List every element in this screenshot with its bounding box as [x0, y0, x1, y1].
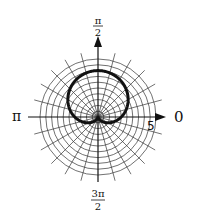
arrow-right-icon	[155, 113, 166, 121]
angle-label-3pi-over-2-num: 3π	[92, 188, 105, 199]
angle-label-3pi-over-2-den: 2	[95, 201, 101, 212]
angle-label-pi: π	[12, 108, 21, 124]
angle-label-3pi-over-2: 3π 2	[91, 188, 105, 212]
radial-tick-label: 5	[147, 119, 155, 133]
angle-label-pi-over-2-den: 2	[95, 27, 101, 38]
angle-label-pi-over-2-num: π	[95, 15, 102, 26]
angle-label-0: 0	[174, 108, 184, 126]
axes	[28, 36, 166, 182]
polar-chart: 0 π π 2 3π 2 5	[0, 0, 198, 220]
angle-label-pi-over-2: π 2	[93, 15, 103, 38]
